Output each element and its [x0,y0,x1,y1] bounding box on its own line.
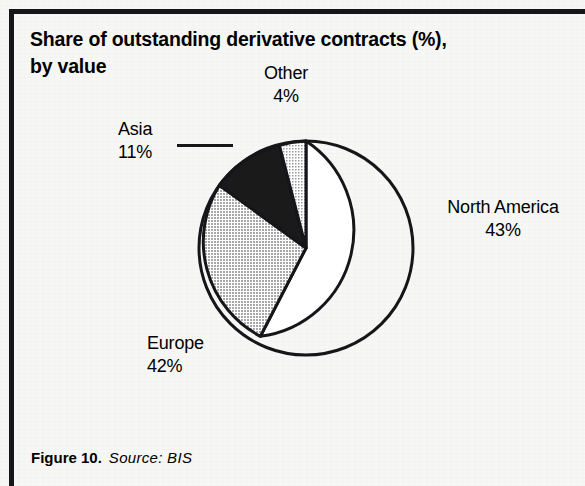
pie-label-asia: Asia 11% [118,118,210,163]
figure-border-left [9,9,14,486]
pie-label-north-america: North America 43% [428,196,578,241]
figure-container: Share of outstanding derivative contract… [0,0,585,486]
figure-caption-number: Figure 10. [31,449,102,466]
figure-border-top [9,9,585,14]
pie-label-europe: Europe 42% [147,332,247,377]
figure-caption: Figure 10.Source: BIS [31,449,192,466]
chart-title: Share of outstanding derivative contract… [30,26,450,80]
pie-label-other: Other 4% [243,62,329,107]
figure-caption-source: Source: BIS [109,449,192,466]
